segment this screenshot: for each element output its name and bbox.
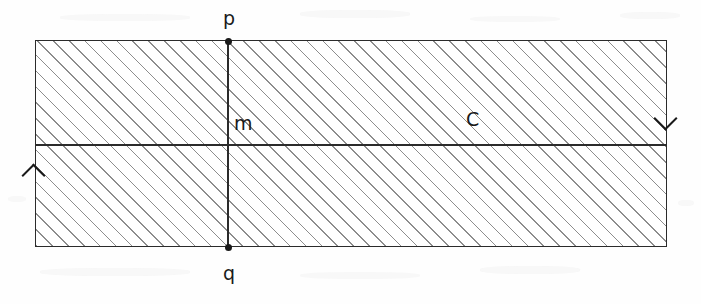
label-p: p [223,9,235,28]
label-q: q [223,264,235,283]
label-m: m [234,114,253,133]
vertex-dot-p [225,38,232,45]
vertex-dot-q [225,244,232,251]
label-c: C [466,110,479,129]
figure-canvas: p q m C [0,0,701,304]
vertical-chord-pq [227,40,229,247]
horizontal-divider-line [35,144,667,146]
